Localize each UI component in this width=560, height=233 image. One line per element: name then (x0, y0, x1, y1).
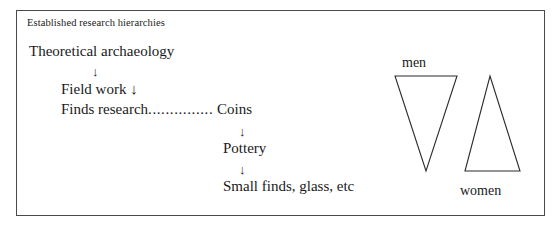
hierarchy-node-finds-research-label: Finds research (61, 101, 148, 117)
hierarchy-node-coins-label: Coins (217, 101, 252, 117)
hierarchy-node-theoretical-archaeology: Theoretical archaeology (29, 43, 174, 60)
down-arrow-icon: ↓ (239, 125, 246, 138)
hierarchy-node-finds-research: Finds research............... Coins (61, 101, 252, 118)
down-arrow-icon: ↓ (92, 65, 99, 78)
hierarchy-node-small-finds: Small finds, glass, etc (223, 178, 354, 195)
women-triangle-label: women (460, 183, 501, 199)
figure-frame: Established research hierarchies Theoret… (16, 10, 545, 216)
hierarchy-node-field-work: Field work ↓ (61, 81, 138, 98)
figure-title: Established research hierarchies (27, 16, 165, 29)
down-arrow-icon: ↓ (239, 163, 246, 176)
down-arrow-icon: ↓ (130, 81, 138, 97)
men-triangle-shape (395, 76, 457, 171)
gender-triangles-diagram: men women (372, 33, 547, 208)
triangles-svg (372, 33, 547, 208)
women-triangle-shape (465, 76, 520, 171)
hierarchy-node-field-work-label: Field work (61, 81, 126, 97)
dotted-leader: ............... (148, 101, 213, 117)
hierarchy-node-pottery: Pottery (223, 140, 266, 157)
